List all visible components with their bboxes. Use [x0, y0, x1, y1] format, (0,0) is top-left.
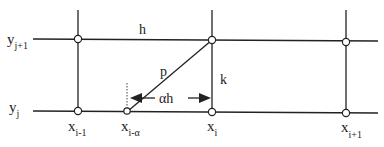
grid-line-y-lower — [33, 111, 378, 113]
node-x-mid-y-upper — [208, 36, 215, 43]
label-alpha-h: αh — [159, 91, 173, 106]
label-x-left: xi-1 — [68, 118, 87, 138]
label-y-upper: yj+1 — [7, 31, 28, 51]
grid-line-y-upper — [33, 39, 378, 41]
label-x-foot: xi-α — [121, 118, 141, 138]
arrow-right-icon — [199, 93, 211, 103]
node-x-right-y-upper — [342, 38, 349, 45]
node-foot — [124, 108, 130, 114]
node-x-left-y-upper — [74, 35, 81, 42]
node-x-left-y-lower — [74, 107, 81, 114]
label-k: k — [220, 72, 227, 87]
label-h: h — [139, 22, 146, 37]
node-x-mid-y-lower — [208, 108, 215, 115]
arrow-left-icon — [130, 93, 142, 103]
stencil-diagram: yj+1 yj xi-1 xi-α xi xi+1 h p k αh — [0, 0, 384, 147]
label-y-lower: yj — [9, 99, 19, 119]
node-x-right-y-lower — [342, 109, 349, 116]
label-p: p — [160, 64, 167, 79]
label-x-right: xi+1 — [341, 119, 362, 140]
label-x-mid: xi — [207, 118, 218, 138]
